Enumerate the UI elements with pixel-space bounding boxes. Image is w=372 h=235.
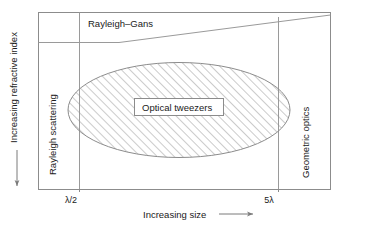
region-label-geometric-optics: Geometric optics: [300, 106, 311, 178]
region-label-rayleigh-gans: Rayleigh–Gans: [88, 18, 153, 29]
diagram-canvas: Rayleigh–Gans Rayleigh scattering Geomet…: [0, 0, 372, 235]
region-label-rayleigh-scattering: Rayleigh scattering: [47, 94, 58, 175]
y-axis-label: Increasing refractive index: [8, 32, 19, 143]
region-label-optical-tweezers: Optical tweezers: [142, 102, 212, 113]
scattering-regime-diagram: Rayleigh–Gans Rayleigh scattering Geomet…: [0, 0, 372, 235]
x-tick-label-five-lambda: 5λ: [264, 195, 274, 205]
x-tick-label-half-lambda: λ/2: [65, 195, 77, 205]
x-axis-label: Increasing size: [143, 209, 206, 220]
